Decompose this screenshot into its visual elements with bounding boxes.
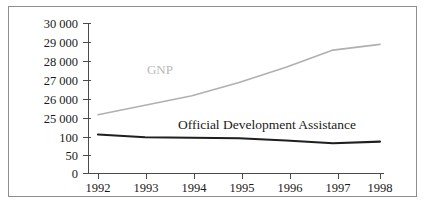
series-label-oda: Official Development Assistance: [178, 117, 356, 132]
y-tick-label: 26 000: [44, 93, 78, 107]
y-tick-label: 30 000: [44, 17, 78, 31]
y-tick-marks: [83, 24, 91, 174]
y-tick-label: 100: [59, 131, 78, 145]
y-tick-label: 0: [72, 167, 78, 181]
y-tick-labels: 30 000 29 000 28 000 27 000 26 000 25 00…: [44, 17, 78, 181]
y-tick-label: 25 000: [44, 112, 78, 126]
x-tick-label: 1996: [278, 181, 303, 195]
y-tick-label: 50: [66, 149, 79, 163]
series-label-gnp: GNP: [147, 62, 173, 77]
chart-page: 30 000 29 000 28 000 27 000 26 000 25 00…: [0, 0, 430, 211]
x-tick-labels: 1992 1993 1994 1995 1996 1997 1998: [86, 181, 393, 195]
line-chart-svg: 30 000 29 000 28 000 27 000 26 000 25 00…: [0, 0, 430, 211]
x-tick-label: 1993: [134, 181, 159, 195]
x-tick-label: 1995: [230, 181, 255, 195]
series-line-oda: [98, 134, 380, 143]
x-tick-label: 1998: [368, 181, 393, 195]
x-tick-label: 1997: [326, 181, 351, 195]
y-tick-label: 27 000: [44, 74, 78, 88]
chart-area: 30 000 29 000 28 000 27 000 26 000 25 00…: [0, 0, 430, 211]
series-line-gnp: [98, 44, 380, 114]
y-tick-label: 28 000: [44, 55, 78, 69]
x-tick-label: 1992: [86, 181, 111, 195]
x-tick-label: 1994: [182, 181, 208, 195]
y-tick-label: 29 000: [44, 36, 78, 50]
